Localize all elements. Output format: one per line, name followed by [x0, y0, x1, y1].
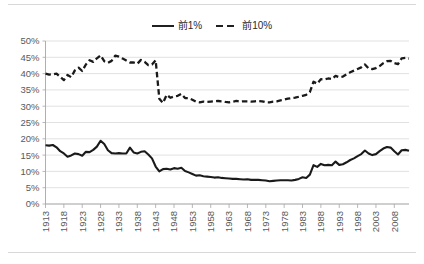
y-tick-label: 15%: [20, 150, 40, 161]
y-tick-label: 20%: [20, 133, 40, 144]
x-tick-label: 2003: [370, 211, 381, 232]
x-tick-label: 1958: [205, 211, 216, 232]
x-tick-label: 1993: [334, 211, 345, 232]
x-tick-label: 1938: [132, 211, 143, 232]
plot-area: 0%5%10%15%20%25%30%35%40%45%50% 19131918…: [0, 0, 424, 264]
series-line-top10: [46, 55, 410, 103]
x-tick-label: 1913: [40, 211, 51, 232]
x-tick-label: 2008: [389, 211, 400, 232]
y-tick-label: 35%: [20, 84, 40, 95]
x-tick-label: 1928: [95, 211, 106, 232]
bottom-divider-rule: [8, 252, 416, 253]
x-tick-label: 1933: [113, 211, 124, 232]
chart-svg: 0%5%10%15%20%25%30%35%40%45%50% 19131918…: [0, 0, 424, 264]
x-tick-label: 1923: [77, 211, 88, 232]
x-tick-label: 1983: [297, 211, 308, 232]
y-tick-label: 45%: [20, 52, 40, 63]
y-tick-label: 10%: [20, 166, 40, 177]
series-line-top1: [46, 141, 410, 181]
y-tick-label: 25%: [20, 117, 40, 128]
x-tick-label: 1948: [168, 211, 179, 232]
y-tick-label: 30%: [20, 101, 40, 112]
chart-container: 前1% 前10% 0%5%10%15%20%25%30%35%40%45%50%…: [0, 0, 424, 264]
x-tick-label: 1953: [187, 211, 198, 232]
y-tick-label: 0%: [26, 198, 40, 209]
data-series-group: [46, 55, 410, 181]
x-tick-label: 1978: [279, 211, 290, 232]
x-tick-label: 1998: [352, 211, 363, 232]
x-tick-label: 1943: [150, 211, 161, 232]
y-tick-label: 50%: [20, 35, 40, 46]
y-tick-label: 40%: [20, 68, 40, 79]
y-tick-label: 5%: [26, 182, 40, 193]
x-tick-label: 1988: [315, 211, 326, 232]
x-axis-group: [46, 41, 410, 208]
x-axis-labels-group: 1913191819231928193319381943194819531958…: [40, 211, 400, 232]
x-tick-label: 1918: [58, 211, 69, 232]
x-tick-label: 1973: [260, 211, 271, 232]
x-tick-label: 1963: [223, 211, 234, 232]
x-tick-label: 1968: [242, 211, 253, 232]
y-axis-labels-group: 0%5%10%15%20%25%30%35%40%45%50%: [20, 35, 40, 209]
gridlines-group: [43, 41, 410, 204]
